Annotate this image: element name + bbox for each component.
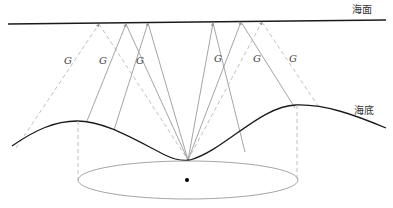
ray-solid-inner-right-1 bbox=[188, 23, 213, 160]
ray-solid-outer-right-2 bbox=[241, 22, 295, 108]
ray-label-g: G bbox=[289, 53, 297, 64]
ray-label-g: G bbox=[64, 55, 72, 66]
ray-label-g: G bbox=[253, 53, 261, 64]
ray-label-g: G bbox=[214, 53, 222, 64]
center-dot bbox=[185, 178, 189, 182]
seabed-curve bbox=[12, 105, 386, 160]
rays bbox=[16, 22, 318, 160]
ray-dashed-outer-left bbox=[16, 24, 99, 148]
ray-label-g: G bbox=[136, 55, 144, 66]
sea-surface-line bbox=[8, 20, 386, 24]
ray-solid-inner-right-2 bbox=[188, 22, 241, 160]
sea-ray-diagram: 海面 G G G G G G 海底 bbox=[0, 0, 393, 208]
ray-dashed-inner-left bbox=[99, 24, 188, 160]
ray-solid-outer-left-2 bbox=[114, 23, 148, 130]
ray-solid-inner-left-2 bbox=[148, 23, 188, 160]
ray-solid-outer-left-1 bbox=[87, 24, 126, 121]
ray-label-g: G bbox=[99, 55, 107, 66]
seabed-label: 海底 bbox=[354, 104, 374, 116]
sea-surface-label: 海面 bbox=[352, 3, 372, 15]
ray-dashed-outer-right bbox=[262, 22, 318, 106]
ray-dashed-inner-right bbox=[188, 22, 262, 160]
ray-solid-outer-right-1 bbox=[213, 23, 245, 152]
